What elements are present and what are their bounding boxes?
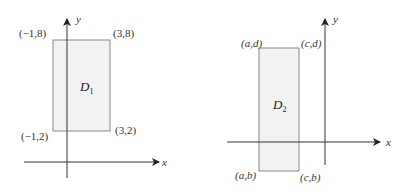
y-axis-label-right: y [332, 13, 338, 25]
corner-label-top-right: (c,d) [301, 37, 322, 50]
x-axis-label-right: x [385, 136, 391, 148]
figure-canvas: x y (−1,8) (3,8) (−1,2) (3,2) D1 x y (a,… [0, 0, 402, 195]
diagram-d2: x y (a,d) (c,d) (a,b) (c,b) D2 [227, 13, 391, 184]
corner-label-bottom-left: (a,b) [235, 169, 256, 182]
corner-label-bottom-right: (3,2) [115, 124, 136, 137]
corner-label-top-right: (3,8) [113, 27, 134, 40]
corner-label-bottom-left: (−1,2) [21, 130, 49, 143]
y-axis-label-left: y [75, 13, 81, 25]
corner-label-bottom-right: (c,b) [300, 171, 321, 184]
diagram-d1: x y (−1,8) (3,8) (−1,2) (3,2) D1 [19, 13, 167, 178]
corner-label-top-left: (a,d) [241, 37, 262, 50]
corner-label-top-left: (−1,8) [19, 27, 47, 40]
x-axis-label-left: x [161, 156, 167, 168]
